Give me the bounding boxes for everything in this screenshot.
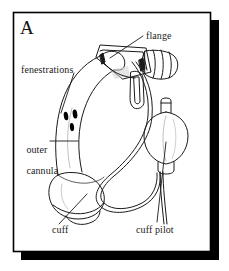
label-cuff: cuff [52, 225, 68, 236]
figure-panel: A flange fenestrations outer cannula cuf… [0, 0, 229, 271]
label-outer-cannula-line1: outer [26, 144, 47, 155]
label-flange: flange [146, 31, 172, 42]
panel-letter: A [20, 18, 34, 37]
label-outer-cannula-line2: cannula [26, 165, 58, 176]
label-outer-cannula: outer cannula [16, 134, 58, 187]
label-cuff-pilot: cuff pilot [136, 225, 174, 236]
frame-border [14, 13, 211, 252]
label-fenestrations: fenestrations [21, 65, 73, 76]
